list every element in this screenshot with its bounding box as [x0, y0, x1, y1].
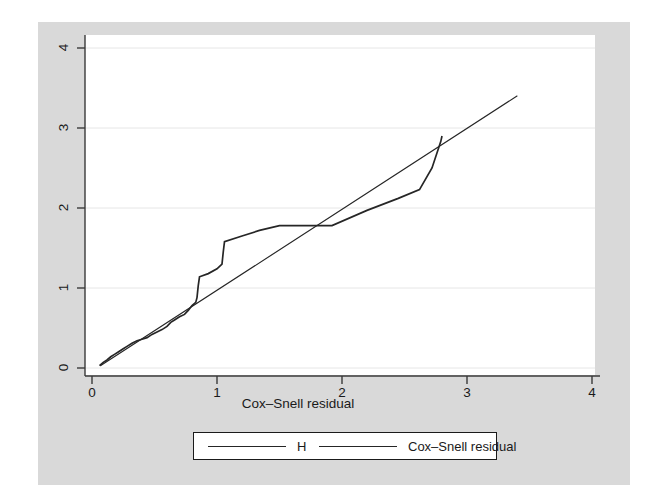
chart-legend: H Cox–Snell residual	[193, 432, 497, 460]
x-axis-title: Cox–Snell residual	[242, 396, 355, 411]
y-tick-label-2: 2	[56, 199, 71, 217]
plot-inner-background	[85, 35, 595, 375]
legend-entry-h[interactable]: H	[208, 433, 306, 459]
legend-swatch-h	[208, 446, 286, 447]
chart-svg	[0, 0, 652, 499]
chart-plot-area	[0, 0, 652, 499]
y-tick-label-4: 4	[56, 39, 71, 57]
x-axis	[85, 376, 600, 384]
y-tick-label-1: 1	[56, 279, 71, 297]
y-axis	[77, 35, 85, 376]
legend-swatch-cox-snell-residual	[319, 446, 397, 447]
legend-label-h: H	[297, 439, 306, 454]
legend-entry-cox-snell-residual[interactable]: Cox–Snell residual	[319, 433, 516, 459]
legend-label-cox-snell-residual: Cox–Snell residual	[408, 439, 516, 454]
y-tick-label-0: 0	[56, 359, 71, 377]
y-tick-label-3: 3	[56, 119, 71, 137]
x-axis-title-container: Cox–Snell residual	[0, 396, 652, 411]
